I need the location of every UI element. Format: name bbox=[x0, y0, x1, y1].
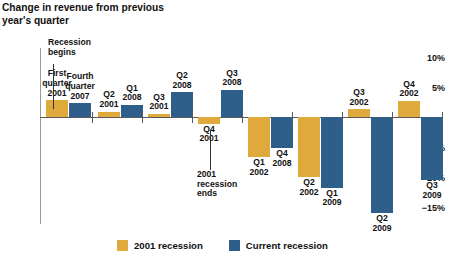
bar-label-2001-recession-3: Q4 2001 bbox=[189, 125, 229, 144]
bar-2001-recession-7 bbox=[398, 101, 420, 117]
bar-current-recession-3 bbox=[221, 90, 243, 117]
annotation-recession-begins: Recession begins bbox=[48, 38, 91, 57]
legend-label-2001: 2001 recession bbox=[134, 240, 203, 251]
bar-label-2001-recession-7: Q4 2002 bbox=[389, 80, 429, 99]
x-axis-tick bbox=[92, 112, 93, 123]
annotation-recession-ends: 2001 recession ends bbox=[197, 170, 237, 199]
bar-current-recession-6 bbox=[371, 117, 393, 213]
legend-item-2001: 2001 recession bbox=[117, 240, 203, 251]
x-axis-tick bbox=[192, 112, 193, 123]
x-axis-tick bbox=[392, 112, 393, 123]
x-axis-tick bbox=[442, 112, 443, 123]
bar-current-recession-4 bbox=[271, 117, 293, 148]
bar-current-recession-7 bbox=[421, 117, 443, 180]
legend-label-current: Current recession bbox=[246, 240, 328, 251]
bar-2001-recession-3 bbox=[198, 117, 220, 124]
bar-label-current-recession-5: Q1 2009 bbox=[312, 189, 352, 208]
recession-ends-leader bbox=[210, 130, 211, 170]
x-axis-tick bbox=[292, 112, 293, 123]
bar-label-current-recession-2: Q2 2008 bbox=[162, 71, 202, 90]
x-axis-tick bbox=[342, 112, 343, 123]
chart-legend: 2001 recession Current recession bbox=[0, 240, 445, 251]
legend-item-current: Current recession bbox=[229, 240, 328, 251]
legend-swatch-2001-icon bbox=[117, 240, 128, 251]
bar-2001-recession-2 bbox=[148, 114, 170, 117]
bar-label-current-recession-1: Q1 2008 bbox=[112, 84, 152, 103]
legend-swatch-current-icon bbox=[229, 240, 240, 251]
bar-label-current-recession-6: Q2 2009 bbox=[362, 214, 402, 233]
bar-label-current-recession-4: Q4 2008 bbox=[262, 149, 302, 168]
bar-label-current-recession-3: Q3 2008 bbox=[212, 69, 252, 88]
bar-label-2001-recession-6: Q3 2002 bbox=[339, 88, 379, 107]
x-axis-tick bbox=[142, 112, 143, 123]
bar-current-recession-0 bbox=[69, 103, 91, 117]
chart-title: Change in revenue from previous year's q… bbox=[2, 2, 192, 27]
bar-2001-recession-0 bbox=[46, 100, 68, 117]
bar-label-current-recession-0: Fourth quarter 2007 bbox=[60, 72, 100, 101]
bar-2001-recession-1 bbox=[98, 112, 120, 117]
bar-2001-recession-6 bbox=[348, 109, 370, 117]
bar-label-current-recession-7: Q3 2009 bbox=[412, 181, 450, 200]
recession-begins-leader bbox=[53, 64, 54, 109]
x-axis-tick bbox=[242, 112, 243, 123]
